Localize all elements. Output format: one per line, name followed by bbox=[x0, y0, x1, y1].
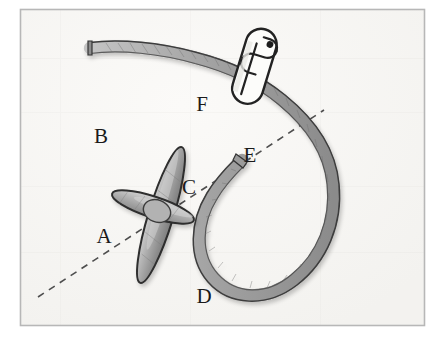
label-d: D bbox=[196, 284, 211, 308]
label-c: C bbox=[182, 175, 196, 199]
label-e: E bbox=[244, 143, 257, 167]
figure-container: A B C D E F bbox=[0, 0, 439, 341]
label-b: B bbox=[94, 124, 108, 148]
diagram-canvas: A B C D E F bbox=[0, 0, 439, 341]
label-a: A bbox=[96, 224, 112, 248]
label-f: F bbox=[196, 92, 208, 116]
